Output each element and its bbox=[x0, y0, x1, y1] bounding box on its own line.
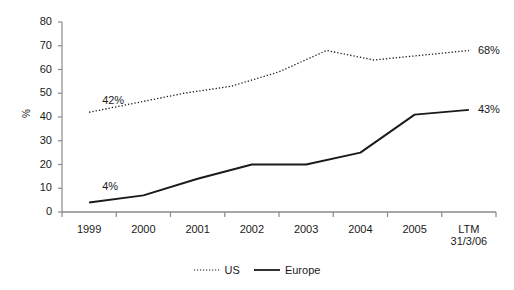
annotation-us-end: 68% bbox=[478, 44, 500, 56]
x-axis-tick-label: 2003 bbox=[276, 223, 336, 235]
x-axis-tick-label: 2005 bbox=[385, 223, 445, 235]
annotation-europe-start: 4% bbox=[102, 180, 118, 192]
x-axis-tick-label: LTM31/3/06 bbox=[439, 223, 499, 247]
chart-legend: US Europe bbox=[0, 264, 514, 276]
y-axis-tick-label: 50 bbox=[28, 87, 52, 98]
y-axis-tick-label: 60 bbox=[28, 64, 52, 75]
annotation-europe-end: 43% bbox=[478, 103, 500, 115]
y-axis-tick-label: 70 bbox=[28, 40, 52, 51]
x-axis-tick-label: 2002 bbox=[222, 223, 282, 235]
legend-label-europe: Europe bbox=[285, 264, 320, 276]
legend-item-us: US bbox=[194, 264, 240, 276]
y-axis-tick-label: 40 bbox=[28, 111, 52, 122]
legend-item-europe: Europe bbox=[254, 264, 320, 276]
x-axis-tick-label: 2001 bbox=[168, 223, 228, 235]
line-chart: % 01020304050607080 19992000200120022003… bbox=[0, 0, 514, 290]
y-axis-tick-label: 30 bbox=[28, 135, 52, 146]
y-axis-tick-label: 0 bbox=[28, 206, 52, 217]
legend-swatch-solid-icon bbox=[254, 266, 280, 274]
series-line-us bbox=[89, 51, 469, 113]
annotation-us-start: 42% bbox=[102, 94, 124, 106]
legend-label-us: US bbox=[225, 264, 240, 276]
y-axis-tick-label: 20 bbox=[28, 159, 52, 170]
x-axis-tick-label: 1999 bbox=[59, 223, 119, 235]
x-axis-tick-label: 2000 bbox=[113, 223, 173, 235]
series-line-europe bbox=[89, 110, 469, 203]
y-axis-tick-label: 10 bbox=[28, 182, 52, 193]
chart-series-layer bbox=[89, 51, 469, 203]
chart-plot-area bbox=[0, 0, 514, 290]
legend-swatch-dotted-icon bbox=[194, 266, 220, 274]
chart-axes bbox=[58, 22, 496, 217]
x-axis-tick-label: 2004 bbox=[330, 223, 390, 235]
y-axis-tick-label: 80 bbox=[28, 16, 52, 27]
